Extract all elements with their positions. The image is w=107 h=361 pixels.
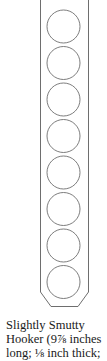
hole-list <box>47 10 80 299</box>
caption-line-3: long; ⅛ inch thick; <box>6 346 107 360</box>
hole-5 <box>47 156 80 189</box>
hole-2 <box>47 47 80 80</box>
board-drawing <box>0 0 107 312</box>
hole-4 <box>47 120 80 153</box>
board-outline <box>41 0 89 307</box>
board-illustration <box>0 0 107 312</box>
hole-7 <box>47 229 80 262</box>
caption-line-2: Hooker (9⅞ inches <box>6 332 107 346</box>
figure-caption: Slightly Smutty Hooker (9⅞ inches long; … <box>6 318 107 361</box>
hole-8 <box>47 266 80 299</box>
caption-line-1: Slightly Smutty <box>6 318 107 332</box>
hole-3 <box>47 83 80 116</box>
hole-6 <box>47 193 80 226</box>
hole-1 <box>47 10 80 43</box>
